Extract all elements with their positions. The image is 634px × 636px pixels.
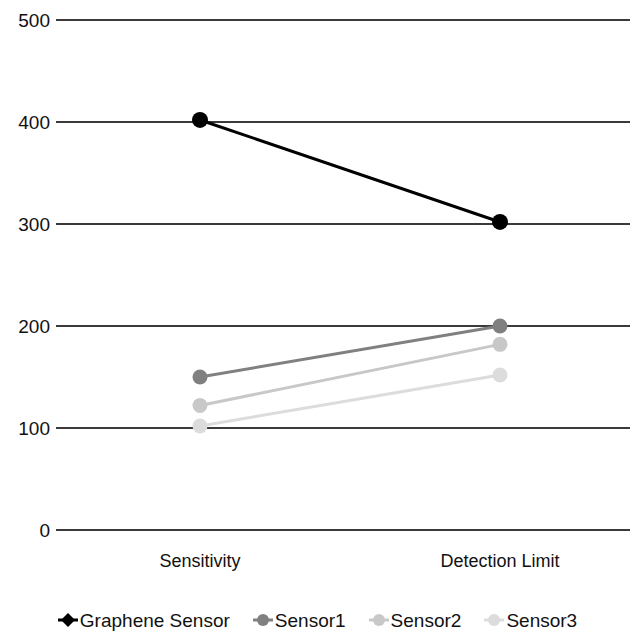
x-axis-tick-labels: Sensitivity Detection Limit xyxy=(0,0,634,600)
legend-item[interactable]: Graphene Sensor xyxy=(57,611,230,630)
circle-marker xyxy=(252,611,274,629)
legend-label: Sensor3 xyxy=(506,611,577,630)
x-axis-tick-label: Detection Limit xyxy=(440,551,559,571)
diamond-marker xyxy=(57,611,79,629)
line-chart: 500 400 300 200 100 0 Sensitivity Detect… xyxy=(0,0,634,636)
legend-item[interactable]: Sensor3 xyxy=(483,611,577,630)
legend-item[interactable]: Sensor2 xyxy=(368,611,462,630)
x-axis-tick-label: Sensitivity xyxy=(159,551,240,571)
chart-legend: Graphene SensorSensor1Sensor2Sensor3 xyxy=(0,604,634,636)
legend-label: Graphene Sensor xyxy=(80,611,230,630)
circle-marker xyxy=(368,611,390,629)
legend-label: Sensor2 xyxy=(391,611,462,630)
legend-item[interactable]: Sensor1 xyxy=(252,611,346,630)
circle-marker xyxy=(483,611,505,629)
plot-area: 500 400 300 200 100 0 Sensitivity Detect… xyxy=(0,0,634,600)
legend-label: Sensor1 xyxy=(275,611,346,630)
